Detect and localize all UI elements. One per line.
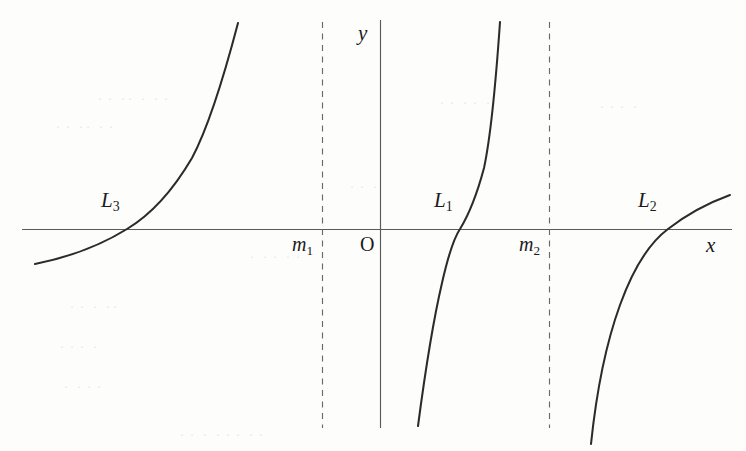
- curve-l1: [418, 22, 500, 426]
- origin-label: O: [360, 234, 374, 254]
- curve-label-l3: L3: [101, 190, 120, 214]
- curve-label-l1: L1: [434, 190, 453, 214]
- curve-l3: [35, 23, 238, 264]
- asymptote-label-m2: m2: [519, 234, 540, 257]
- graph-canvas: [0, 0, 746, 451]
- x-axis-label: x: [706, 235, 715, 256]
- graph-figure: · · · · · · · · · · · · · · · · · · · · …: [0, 0, 746, 451]
- curve-label-l2: L2: [638, 190, 657, 214]
- y-axis-label: y: [358, 23, 367, 44]
- asymptote-label-m1: m1: [292, 234, 313, 257]
